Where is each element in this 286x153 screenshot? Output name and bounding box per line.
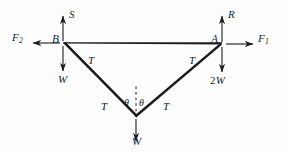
force-label-r: R (228, 9, 235, 20)
force-label-2w: 2W (210, 75, 225, 86)
tension-label-upper-left: T (88, 55, 94, 66)
force-label-f2: F2 (12, 32, 23, 45)
tension-label-lower-left: T (101, 101, 107, 112)
tension-label-upper-right: T (189, 55, 195, 66)
force-label-f1: F1 (258, 33, 269, 46)
force-label-s: S (69, 9, 75, 20)
diagram-canvas (0, 0, 286, 153)
tension-label-lower-right: T (163, 101, 169, 112)
point-label-b: B (52, 34, 59, 46)
angle-label-theta-left: θ (124, 98, 129, 108)
member-ca-right-cable (135, 43, 222, 117)
point-label-a: A (211, 34, 218, 46)
member-ba-top-chord (63, 42, 222, 44)
force-label-w-left: W (58, 74, 67, 85)
free-body-diagram-figure: F2 B S W T T θ θ W T T A R 2W F1 (0, 0, 286, 153)
force-label-w-bottom: W (132, 136, 141, 147)
angle-label-theta-right: θ (139, 98, 144, 108)
